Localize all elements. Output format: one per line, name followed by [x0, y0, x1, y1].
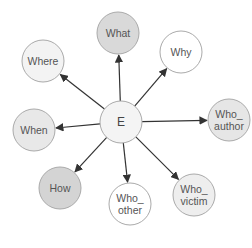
edge-E-to-who_author: [142, 120, 207, 121]
edge-E-to-where: [60, 75, 104, 110]
node-when[interactable]: When: [13, 109, 55, 151]
node-where[interactable]: Where: [22, 40, 64, 82]
node-label: How: [49, 182, 70, 194]
edge-E-to-who_other: [123, 143, 127, 182]
node-who_other[interactable]: Who_other: [109, 183, 151, 225]
node-label: Who_: [215, 108, 243, 120]
edge-E-to-why: [135, 69, 167, 106]
node-label: When: [20, 124, 48, 136]
node-label: author: [214, 120, 244, 132]
node-who_author[interactable]: Who_author: [208, 99, 250, 141]
edge-E-to-when: [56, 124, 100, 128]
edge-E-to-how: [75, 137, 107, 171]
center-node-E[interactable]: E: [100, 101, 142, 143]
node-label: What: [106, 27, 131, 39]
node-why[interactable]: Why: [160, 31, 202, 73]
node-label: Who_: [180, 183, 208, 195]
node-label: other: [118, 204, 142, 216]
node-label: victim: [181, 195, 208, 207]
node-label: Where: [28, 55, 59, 67]
node-what[interactable]: What: [97, 12, 139, 54]
edge-E-to-what: [119, 55, 121, 101]
center-label: E: [117, 115, 125, 129]
node-label: Why: [171, 46, 193, 58]
node-who_victim[interactable]: Who_victim: [173, 174, 215, 216]
event-5w1h-diagram: WhatWhereWhyWhenWho_authorHowWho_otherWh…: [0, 0, 252, 248]
edge-E-to-who_victim: [136, 137, 179, 180]
node-label: Who_: [116, 192, 144, 204]
node-how[interactable]: How: [39, 167, 81, 209]
